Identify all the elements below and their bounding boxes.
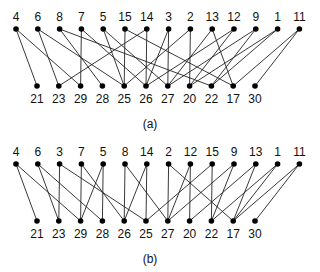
edge xyxy=(190,29,278,86)
diagram-a: 4687515143213129111212329282526272022173… xyxy=(13,10,306,131)
edge xyxy=(146,164,147,221)
top-node xyxy=(79,26,85,32)
top-node-label: 2 xyxy=(187,10,194,24)
bottom-node xyxy=(252,83,258,89)
top-node xyxy=(166,26,172,32)
edge xyxy=(103,29,168,86)
bottom-node xyxy=(165,83,171,89)
top-node xyxy=(35,26,41,32)
bottom-node xyxy=(209,83,215,89)
edge xyxy=(81,164,82,221)
top-node-label: 11 xyxy=(293,145,306,159)
bottom-node-label: 28 xyxy=(96,92,110,106)
top-node-label: 8 xyxy=(122,145,129,159)
edge xyxy=(81,164,104,221)
bottom-node-label: 28 xyxy=(96,227,110,241)
top-node-label: 8 xyxy=(56,10,63,24)
bottom-node xyxy=(143,218,149,224)
edge xyxy=(102,164,103,221)
top-node xyxy=(188,26,194,32)
top-node-label: 9 xyxy=(231,145,238,159)
diagram-caption: (a) xyxy=(143,117,158,131)
top-node xyxy=(57,26,63,32)
bottom-node-label: 23 xyxy=(52,227,66,241)
edges xyxy=(16,29,299,86)
bottom-node-label: 26 xyxy=(118,227,132,241)
top-node-label: 12 xyxy=(184,145,198,159)
top-node-label: 4 xyxy=(13,145,20,159)
edge xyxy=(38,164,103,221)
edge xyxy=(212,29,233,86)
edge xyxy=(81,29,82,86)
top-node-label: 13 xyxy=(206,10,220,24)
bipartite-graph-figure: 4687515143213129111212329282526272022173… xyxy=(0,0,320,272)
top-node xyxy=(209,161,215,167)
top-node-label: 14 xyxy=(140,10,154,24)
bottom-node-label: 27 xyxy=(161,92,175,106)
bottom-node-label: 25 xyxy=(139,227,153,241)
top-node xyxy=(144,161,150,167)
bottom-node-label: 29 xyxy=(74,92,88,106)
top-node xyxy=(35,161,41,167)
bottom-node-label: 20 xyxy=(183,92,197,106)
top-node xyxy=(275,161,281,167)
top-node-label: 5 xyxy=(100,10,107,24)
top-node xyxy=(144,26,150,32)
edges xyxy=(16,164,299,221)
bottom-node-label: 22 xyxy=(205,227,219,241)
top-node-label: 3 xyxy=(165,10,172,24)
top-node-label: 15 xyxy=(118,10,132,24)
top-node-label: 6 xyxy=(34,145,41,159)
bottom-node-label: 20 xyxy=(183,227,197,241)
top-node xyxy=(188,161,194,167)
top-node xyxy=(122,26,128,32)
bottom-node xyxy=(121,83,127,89)
bottom-node xyxy=(100,218,106,224)
top-node-label: 15 xyxy=(206,145,220,159)
bottom-node xyxy=(252,218,258,224)
top-node xyxy=(13,161,19,167)
bottom-node xyxy=(100,83,106,89)
top-node xyxy=(253,161,259,167)
top-node-label: 5 xyxy=(100,145,107,159)
top-node xyxy=(275,26,281,32)
edge xyxy=(190,164,191,221)
edge xyxy=(16,29,37,86)
top-node xyxy=(13,26,19,32)
edge xyxy=(124,164,147,221)
edge xyxy=(211,164,277,221)
edge xyxy=(38,29,59,86)
edge xyxy=(233,164,299,221)
top-node-label: 2 xyxy=(165,145,172,159)
bottom-node xyxy=(187,218,193,224)
top-node-label: 1 xyxy=(274,10,281,24)
edge xyxy=(124,29,125,86)
edge xyxy=(211,164,212,221)
bottom-node xyxy=(187,83,193,89)
edge xyxy=(146,29,147,86)
bottom-node-label: 17 xyxy=(227,92,241,106)
top-node-label: 13 xyxy=(249,145,263,159)
bottom-node-label: 27 xyxy=(161,227,175,241)
top-node xyxy=(100,161,106,167)
top-node xyxy=(231,161,237,167)
bottom-node-label: 29 xyxy=(74,227,88,241)
edge xyxy=(146,164,212,221)
bottom-node xyxy=(56,218,62,224)
bottom-node-label: 25 xyxy=(118,92,132,106)
bottom-node-label: 30 xyxy=(248,92,262,106)
top-node-label: 7 xyxy=(78,10,85,24)
top-node xyxy=(297,26,303,32)
bottom-node-label: 23 xyxy=(52,92,66,106)
top-node-label: 11 xyxy=(293,10,306,24)
bottom-node-label: 21 xyxy=(30,227,44,241)
bottom-node-label: 26 xyxy=(139,92,153,106)
bottom-node xyxy=(121,218,127,224)
edge xyxy=(16,164,37,221)
bottom-node xyxy=(230,218,236,224)
top-node xyxy=(166,161,172,167)
top-node-label: 6 xyxy=(34,10,41,24)
bottom-node xyxy=(56,83,62,89)
edge xyxy=(38,164,59,221)
top-node xyxy=(297,161,303,167)
